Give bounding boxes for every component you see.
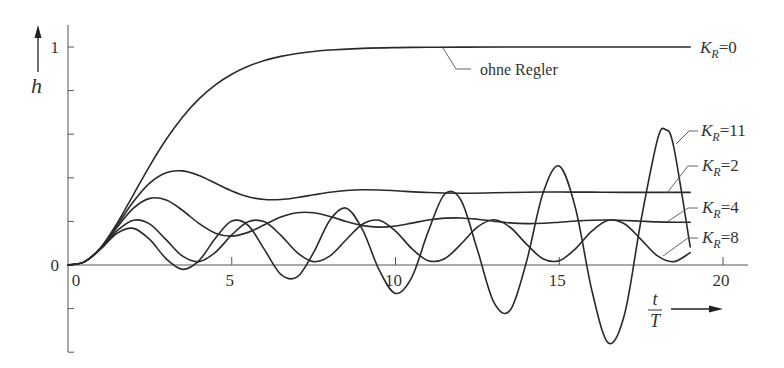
series-label-k11-value: =11 [720, 121, 746, 140]
series-label-k2: KR=2 [667, 156, 739, 193]
series-label-k0-value: =0 [719, 38, 737, 57]
annotation-text: ohne Regler [480, 61, 558, 79]
x-axis-arrow-icon [671, 306, 723, 313]
series-line-k2 [68, 171, 690, 265]
series-label-k8: KR=8 [663, 228, 739, 256]
x-tick-label: 5 [226, 271, 235, 290]
x-tick-label: 15 [549, 271, 566, 290]
series-leader-k8 [663, 238, 698, 256]
step-response-chart: 01 05101520 h t T ohne Regler KR=0 KR=11 [0, 0, 784, 368]
series-label-k0: KR=0 [699, 38, 737, 61]
series-label-k4: KR=4 [667, 198, 739, 222]
series-line-k4 [68, 198, 690, 265]
x-tick-label: 20 [713, 271, 730, 290]
svg-text:KR=2: KR=2 [701, 156, 739, 179]
x-axis-label-denominator: T [650, 311, 662, 331]
y-tick-label: 1 [51, 38, 60, 57]
series-curves [68, 47, 690, 344]
series-labels: KR=0 KR=11 KR=2 KR=4 KR=8 [663, 38, 746, 256]
svg-text:KR=0: KR=0 [699, 38, 737, 61]
y-tick-label: 0 [51, 256, 60, 275]
svg-text:KR=8: KR=8 [701, 228, 739, 251]
x-tick-label: 10 [385, 271, 402, 290]
annotation-ohne-regler: ohne Regler [443, 48, 558, 79]
y-ticks: 01 [51, 38, 75, 352]
svg-text:KR=4: KR=4 [701, 198, 739, 221]
y-axis-label: h [31, 73, 42, 98]
svg-text:KR=11: KR=11 [700, 121, 746, 144]
series-leader-k4 [667, 208, 698, 222]
series-line-k0 [68, 47, 690, 265]
series-label-k2-value: =2 [721, 156, 739, 175]
series-leader-k11 [676, 131, 698, 144]
series-label-k11: KR=11 [676, 121, 746, 144]
series-leader-k2 [667, 166, 698, 193]
y-axis-arrow-icon [35, 25, 42, 72]
x-axis-label-numerator: t [652, 289, 658, 309]
series-label-k4-value: =4 [721, 198, 740, 217]
annotation-leader [443, 48, 471, 69]
series-label-k8-value: =8 [721, 228, 739, 247]
x-tick-label: 0 [72, 271, 81, 290]
